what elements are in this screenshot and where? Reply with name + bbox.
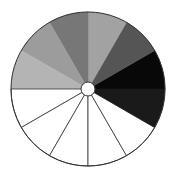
grayscale-wheel — [0, 0, 174, 174]
wheel-hub — [81, 82, 95, 96]
